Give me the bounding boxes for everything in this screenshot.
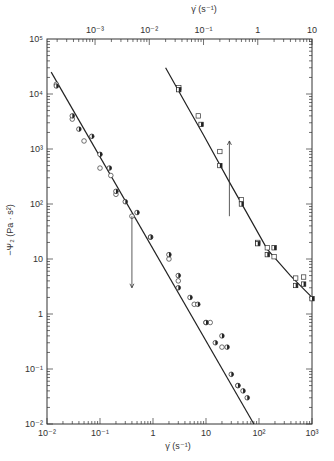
- svg-text:10⁻¹: 10⁻¹: [25, 364, 43, 374]
- svg-text:10⁻²: 10⁻²: [38, 428, 56, 438]
- svg-text:10⁴: 10⁴: [29, 89, 43, 99]
- svg-text:10²: 10²: [30, 199, 43, 209]
- svg-text:10⁵: 10⁵: [29, 34, 43, 44]
- svg-text:10³: 10³: [30, 144, 43, 154]
- svg-text:1: 1: [150, 428, 155, 438]
- svg-text:10⁻¹: 10⁻¹: [195, 25, 213, 35]
- svg-text:10⁻²: 10⁻²: [25, 419, 43, 429]
- x-axis-title: γ̇ (s⁻¹): [165, 441, 191, 451]
- data-points: [54, 82, 314, 400]
- svg-text:10⁻³: 10⁻³: [86, 25, 104, 35]
- svg-text:10: 10: [33, 254, 43, 264]
- svg-text:10⁻¹: 10⁻¹: [91, 428, 109, 438]
- plot-frame: [47, 39, 312, 424]
- svg-text:10²: 10²: [252, 428, 265, 438]
- svg-text:1: 1: [38, 309, 43, 319]
- y-axis-title: −Ψ₂ (Pa · s²): [5, 204, 15, 255]
- axis-ticks: [47, 39, 312, 424]
- chart-figure: 10⁻²10⁻¹11010²10³10⁻³10⁻²10⁻¹11010⁻²10⁻¹…: [0, 0, 334, 461]
- svg-text:1: 1: [255, 25, 260, 35]
- top-axis-title: γ̇ (s⁻¹): [191, 4, 217, 14]
- svg-text:10³: 10³: [305, 428, 318, 438]
- tick-labels: 10⁻²10⁻¹11010²10³10⁻³10⁻²10⁻¹11010⁻²10⁻¹…: [25, 25, 319, 438]
- svg-text:10⁻²: 10⁻²: [140, 25, 158, 35]
- arrows: [130, 141, 231, 288]
- svg-text:10: 10: [201, 428, 211, 438]
- svg-text:10: 10: [307, 25, 317, 35]
